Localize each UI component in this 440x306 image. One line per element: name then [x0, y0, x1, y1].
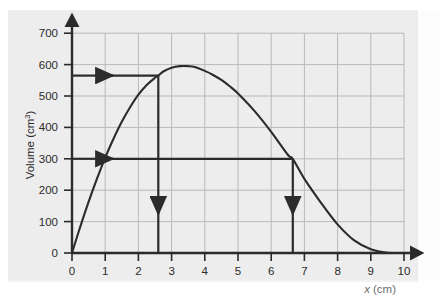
x-tick-label-1: 1 [102, 265, 108, 277]
x-tick-label-7: 7 [301, 265, 307, 277]
figure-container: 0 100 200 300 400 500 600 700 0 1 2 3 4 … [0, 0, 440, 306]
y-tick-label-600: 600 [39, 59, 58, 71]
y-tick-label-200: 200 [39, 184, 58, 196]
x-tick-label-3: 3 [168, 265, 174, 277]
y-tick-label-0: 0 [52, 247, 58, 259]
x-axis-label-variable: x [363, 283, 371, 295]
x-axis-label-unit: (cm) [373, 283, 396, 295]
y-axis-label-close: ) [24, 110, 36, 114]
y-tick-label-300: 300 [39, 153, 58, 165]
x-tick-label-9: 9 [368, 265, 374, 277]
x-tick-label-0: 0 [69, 265, 75, 277]
y-tick-label-100: 100 [39, 216, 58, 228]
y-axis-label-base: Volume (cm [24, 119, 36, 180]
x-tick-label-4: 4 [202, 265, 209, 277]
x-axis-label: x(cm) [363, 283, 396, 295]
x-tick-labels: 0 1 2 3 4 5 6 7 8 9 10 [69, 265, 411, 277]
svg-text:x(cm): x(cm) [363, 283, 396, 295]
x-tick-label-6: 6 [268, 265, 274, 277]
volume-vs-x-chart: 0 100 200 300 400 500 600 700 0 1 2 3 4 … [0, 0, 440, 306]
grid-lines [72, 33, 404, 253]
grid-vertical [72, 33, 404, 253]
svg-text:Volume (cm3): Volume (cm3) [23, 110, 36, 179]
y-axis-label: Volume (cm3) [23, 110, 36, 179]
x-tick-label-10: 10 [398, 265, 411, 277]
x-tick-label-2: 2 [135, 265, 141, 277]
x-tick-label-8: 8 [334, 265, 340, 277]
y-tick-labels: 0 100 200 300 400 500 600 700 [39, 27, 58, 259]
y-tick-label-400: 400 [39, 121, 58, 133]
y-tick-label-500: 500 [39, 90, 58, 102]
x-tick-label-5: 5 [235, 265, 241, 277]
y-tick-label-700: 700 [39, 27, 58, 39]
